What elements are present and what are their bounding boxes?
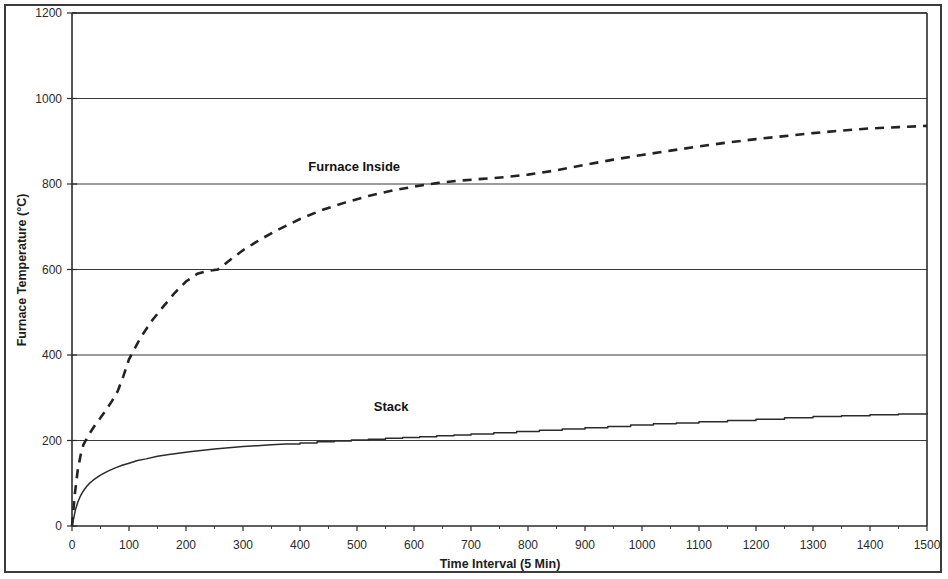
x-tick-label-500: 500 xyxy=(347,538,367,552)
series-label-furnace-inside: Furnace Inside xyxy=(308,159,400,174)
x-tick-label-900: 900 xyxy=(575,538,595,552)
x-tick-label-1000: 1000 xyxy=(629,538,656,552)
x-tick-label-1400: 1400 xyxy=(857,538,884,552)
chart-figure: 0200400600800100012000100200300400500600… xyxy=(0,0,948,579)
x-tick-label-1200: 1200 xyxy=(743,538,770,552)
y-tick-label-0: 0 xyxy=(55,519,62,533)
series-paths-group xyxy=(72,126,927,526)
x-tick-label-600: 600 xyxy=(404,538,424,552)
x-tick-label-1300: 1300 xyxy=(800,538,827,552)
x-tick-label-800: 800 xyxy=(518,538,538,552)
furnace-temperature-line-chart: 0200400600800100012000100200300400500600… xyxy=(0,0,948,579)
tick-marks-group xyxy=(67,13,927,531)
y-tick-label-600: 600 xyxy=(42,263,62,277)
series-path-stack xyxy=(72,414,927,526)
x-tick-label-1500: 1500 xyxy=(914,538,941,552)
y-tick-label-1000: 1000 xyxy=(35,92,62,106)
x-tick-label-700: 700 xyxy=(461,538,481,552)
x-tick-label-0: 0 xyxy=(69,538,76,552)
y-tick-label-1200: 1200 xyxy=(35,6,62,20)
x-tick-label-1100: 1100 xyxy=(686,538,712,552)
series-path-furnace-inside xyxy=(72,126,927,526)
series-label-stack: Stack xyxy=(374,399,409,414)
y-tick-label-200: 200 xyxy=(42,434,62,448)
x-tick-label-100: 100 xyxy=(119,538,139,552)
y-axis-title: Furnace Temperature (°C) xyxy=(15,194,29,347)
y-tick-label-800: 800 xyxy=(42,177,62,191)
gridlines-group xyxy=(72,13,927,441)
x-axis-title: Time Interval (5 Min) xyxy=(440,557,561,571)
y-tick-label-400: 400 xyxy=(42,348,62,362)
x-tick-label-400: 400 xyxy=(290,538,310,552)
x-tick-label-200: 200 xyxy=(176,538,196,552)
tick-labels-group: 0200400600800100012000100200300400500600… xyxy=(35,6,940,552)
x-tick-label-300: 300 xyxy=(233,538,253,552)
